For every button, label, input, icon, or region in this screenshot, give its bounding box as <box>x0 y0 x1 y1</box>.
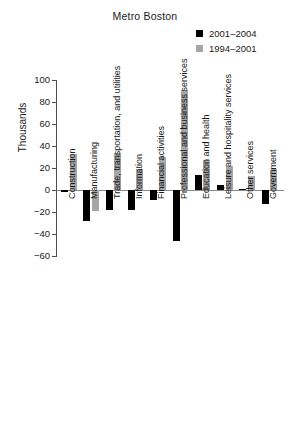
y-tick-label: 40 <box>8 141 50 151</box>
y-tick <box>52 256 57 257</box>
legend-label-series-1: 2001–2004 <box>209 28 257 39</box>
y-tick-label: 0 <box>8 185 50 195</box>
legend-label-series-2: 1994–2001 <box>209 43 257 54</box>
y-tick-label: 60 <box>8 119 50 129</box>
y-tick-label: −20 <box>8 207 50 217</box>
y-tick-label: −40 <box>8 229 50 239</box>
category-label: Trade, transportation, and utilities <box>112 66 122 199</box>
category-label: Education and health <box>201 114 211 199</box>
category-label: Leisure and hospitality services <box>223 74 233 199</box>
legend-swatch-black <box>196 30 203 37</box>
category-label: Other services <box>245 141 255 199</box>
y-tick-label: −60 <box>8 251 50 261</box>
category-label: Professional and business services <box>179 58 189 199</box>
bar-chart: Metro Boston 2001–2004 1994–2001 Thousan… <box>0 0 290 437</box>
category-label: Information <box>134 154 144 199</box>
category-label: Manufacturing <box>89 142 99 199</box>
legend-item-series-1: 2001–2004 <box>196 27 257 40</box>
y-tick-label: 80 <box>8 97 50 107</box>
chart-legend: 2001–2004 1994–2001 <box>196 27 257 57</box>
category-label: Government <box>268 149 278 199</box>
category-label: Financial activities <box>156 126 166 199</box>
legend-item-series-2: 1994–2001 <box>196 42 257 55</box>
chart-title: Metro Boston <box>0 10 290 22</box>
category-label: Construction <box>67 148 77 199</box>
y-tick-label: 20 <box>8 163 50 173</box>
y-tick-label: 100 <box>8 75 50 85</box>
legend-swatch-gray <box>196 45 203 52</box>
